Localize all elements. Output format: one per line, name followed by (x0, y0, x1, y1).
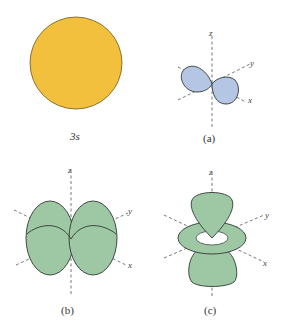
panel-b: z y x (b) (14, 165, 132, 317)
panel-a: z y x (a) (178, 28, 254, 145)
label-b: (b) (61, 304, 74, 317)
lobe-right (69, 201, 117, 275)
x-label: x (262, 258, 267, 268)
lobe-bottom (189, 249, 237, 287)
y-label: y (127, 206, 132, 216)
lobe-left (26, 201, 74, 275)
z-label: z (208, 167, 213, 177)
lobe-left (181, 66, 212, 92)
y-label: y (249, 58, 254, 68)
label-a: (a) (203, 132, 216, 145)
label-3s: 3s (69, 130, 80, 142)
panel-3s: 3s (30, 17, 122, 142)
z-label: z (208, 28, 213, 38)
3s-sphere (30, 17, 122, 109)
x-label: x (247, 95, 252, 105)
label-c: (c) (204, 304, 217, 317)
lobe-right (212, 77, 238, 104)
x-label: x (127, 260, 132, 270)
y-label: y (264, 210, 269, 220)
z-label: z (67, 165, 72, 175)
orbital-diagram: 3s z y x (a) z y x (b) z (0, 0, 299, 336)
panel-c: z y x (c) (164, 167, 269, 317)
